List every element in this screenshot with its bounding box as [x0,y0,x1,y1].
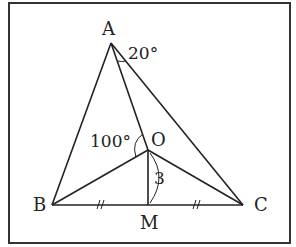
point-label-m: M [140,214,158,232]
segment-bo [52,150,148,205]
point-label-c: C [254,196,268,214]
segment-ac [111,43,243,205]
frame-border [9,3,290,243]
length-label-3: 3 [154,170,165,187]
segment-ab [52,43,111,205]
point-label-o: O [151,131,166,149]
angle-arc-a [117,61,126,62]
point-label-b: B [33,196,46,214]
geometry-diagram: A B C O M 20° 100° 3 [0,0,296,247]
point-label-a: A [102,20,115,38]
angle-label-20: 20° [128,45,158,62]
angle-label-100: 100° [90,133,131,150]
